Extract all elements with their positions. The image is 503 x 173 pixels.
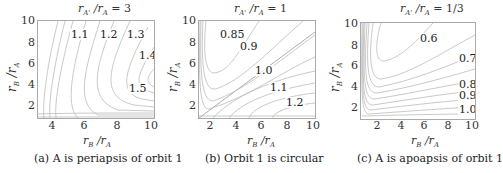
ytick: 8 [342, 40, 358, 51]
y-axis-label-c: rB /rA [328, 62, 344, 92]
caption-c: (c) A is apoapsis of orbit 1 [357, 152, 503, 165]
x-axis-label-c: rB /rA [411, 134, 439, 149]
contour-label: 1.0 [458, 104, 476, 115]
ytick: 2 [342, 102, 358, 113]
ytick: 10 [342, 18, 358, 29]
contour-label: 0.7 [458, 53, 476, 64]
ytick: 6 [342, 60, 358, 71]
panel-c-title: rA' /rA = 1/3 [400, 2, 464, 17]
contour-label: 0.9 [458, 90, 476, 101]
contour-label: 0.6 [419, 33, 439, 44]
xtick: 8 [438, 120, 458, 131]
xtick: 6 [414, 120, 434, 131]
xtick: 10 [462, 120, 482, 131]
xtick: 4 [391, 120, 411, 131]
plot-area-c: 0.6 0.7 0.8 0.9 1.0 [360, 22, 476, 120]
xtick: 2 [367, 120, 387, 131]
ytick: 4 [342, 81, 358, 92]
